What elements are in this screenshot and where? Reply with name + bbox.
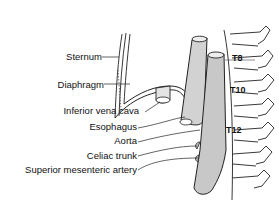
label-t12: T12 bbox=[226, 126, 242, 135]
label-superior-mesenteric-artery: Superior mesenteric artery bbox=[25, 165, 137, 175]
label-aorta: Aorta bbox=[114, 136, 137, 146]
label-celiac-trunk: Celiac trunk bbox=[87, 151, 137, 161]
label-diaphragm: Diaphragm bbox=[58, 80, 104, 90]
anatomy-drawing bbox=[0, 0, 279, 213]
label-t8: T8 bbox=[232, 54, 243, 63]
label-esophagus: Esophagus bbox=[89, 122, 137, 132]
label-inferior-vena-cava: Inferior vena cava bbox=[63, 106, 139, 116]
label-t10: T10 bbox=[230, 86, 246, 95]
label-sternum: Sternum bbox=[66, 52, 102, 62]
ivc-shape bbox=[156, 86, 170, 103]
